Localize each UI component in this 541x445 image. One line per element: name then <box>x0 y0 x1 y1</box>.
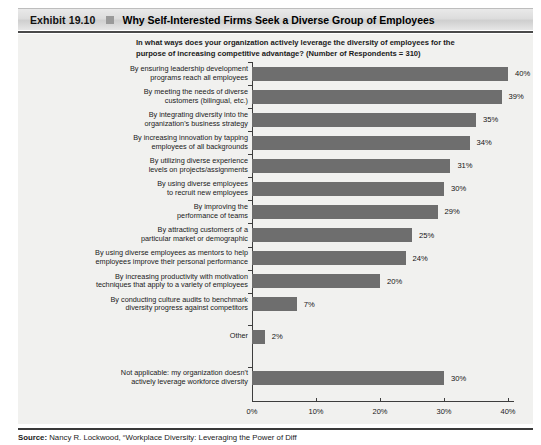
category-label-line: programs reach all employees <box>150 74 248 83</box>
bar <box>252 330 265 344</box>
bar <box>252 228 412 242</box>
survey-question: In what ways does your organization acti… <box>136 38 486 59</box>
x-axis-tick <box>316 398 317 402</box>
exhibit-header: Exhibit 19.10 Why Self-Interested Firms … <box>18 8 533 30</box>
category-label-line: particular market or demographic <box>141 235 248 244</box>
exhibit-number: Exhibit 19.10 <box>30 14 96 26</box>
bar-row: 29% <box>252 200 514 223</box>
y-axis-tick <box>248 325 252 326</box>
y-axis-tick <box>248 177 252 178</box>
category-label: By ensuring leadership developmentprogra… <box>26 62 248 85</box>
chart-panel: In what ways does your organization acti… <box>18 34 533 424</box>
bar <box>252 113 476 127</box>
bar <box>252 182 444 196</box>
source-note: Source: Nancy R. Lockwood, “Workplace Di… <box>18 433 533 444</box>
y-axis-tick <box>248 108 252 109</box>
bar-row: 35% <box>252 108 514 131</box>
category-label-line: organization's business strategy <box>144 120 248 129</box>
x-axis-tick-label: 40% <box>500 407 515 416</box>
y-axis-tick <box>248 247 252 248</box>
category-label-line: actively leverage workforce diversity <box>131 378 248 387</box>
bar <box>252 371 444 385</box>
x-axis-tick <box>444 398 445 402</box>
bar-value-label: 7% <box>304 300 315 309</box>
source-prefix: Source: <box>18 433 47 442</box>
bar <box>252 274 380 288</box>
bar <box>252 136 470 150</box>
category-label-line: employees improve their personal perform… <box>96 258 249 267</box>
bar <box>252 251 406 265</box>
bar-row: 39% <box>252 85 514 108</box>
bar-value-label: 35% <box>483 115 498 124</box>
bar-row: 2% <box>252 325 514 348</box>
bar-row: 25% <box>252 223 514 246</box>
bar-value-label: 2% <box>272 332 283 341</box>
bar-row: 7% <box>252 293 514 316</box>
category-label: By integrating diversity into theorganiz… <box>26 108 248 131</box>
plot-area: 40%39%35%34%31%30%29%25%24%20%7%2%30% 0%… <box>252 62 514 402</box>
x-axis-tick-label: 20% <box>372 407 387 416</box>
category-label: Other <box>26 325 248 348</box>
x-axis-tick <box>380 398 381 402</box>
category-label: By using diverse employeesto recruit new… <box>26 177 248 200</box>
header-divider <box>18 31 533 33</box>
y-axis-tick <box>248 293 252 294</box>
category-label-line: Other <box>230 332 248 341</box>
category-label: By improving theperformance of teams <box>26 200 248 223</box>
bar-row: 30% <box>252 177 514 200</box>
exhibit-title: Why Self-Interested Firms Seek a Diverse… <box>123 14 435 26</box>
y-axis-tick <box>248 223 252 224</box>
category-label: By utilizing diverse experiencelevels on… <box>26 154 248 177</box>
bar-value-label: 39% <box>509 92 524 101</box>
y-axis-tick <box>248 270 252 271</box>
category-label-line: performance of teams <box>177 212 248 221</box>
bar <box>252 90 502 104</box>
category-label-line: customers (bilingual, etc.) <box>165 97 248 106</box>
y-axis-tick <box>248 200 252 201</box>
y-axis-tick <box>248 367 252 368</box>
bar-row: 34% <box>252 131 514 154</box>
square-marker-icon <box>106 16 114 24</box>
category-label: By meeting the needs of diversecustomers… <box>26 85 248 108</box>
bar-row: 40% <box>252 62 514 85</box>
source-text: Nancy R. Lockwood, “Workplace Diversity:… <box>49 433 297 442</box>
category-label-line: to recruit new employees <box>167 189 248 198</box>
bar-value-label: 25% <box>419 231 434 240</box>
category-label: Not applicable: my organization doesn'ta… <box>26 367 248 390</box>
y-axis-tick <box>248 85 252 86</box>
bar-row: 24% <box>252 247 514 270</box>
y-axis-tick <box>248 131 252 132</box>
x-axis-tick-label: 10% <box>308 407 323 416</box>
category-label: By increasing productivity with motivati… <box>26 270 248 293</box>
y-axis-tick <box>248 62 252 63</box>
bar-value-label: 40% <box>515 69 530 78</box>
bar-value-label: 20% <box>387 277 402 286</box>
bar <box>252 67 508 81</box>
category-label: By conducting culture audits to benchmar… <box>26 293 248 316</box>
bar-value-label: 34% <box>477 138 492 147</box>
bar-value-label: 29% <box>445 207 460 216</box>
bar-row: 31% <box>252 154 514 177</box>
footer-divider <box>18 428 533 430</box>
y-axis-tick <box>248 154 252 155</box>
x-axis-tick <box>508 398 509 402</box>
bar-row: 30% <box>252 367 514 390</box>
category-label-line: levels on projects/assignments <box>149 166 248 175</box>
bar-value-label: 30% <box>451 184 466 193</box>
category-label-line: employees of all backgrounds <box>151 143 248 152</box>
category-label: By attracting customers of aparticular m… <box>26 223 248 246</box>
x-axis-line <box>252 401 514 402</box>
category-label-line: techniques that apply to a variety of em… <box>96 281 248 290</box>
bar <box>252 297 297 311</box>
bar-rows: 40%39%35%34%31%30%29%25%24%20%7%2%30% <box>252 62 514 401</box>
x-axis-tick <box>252 398 253 402</box>
category-label: By increasing innovation by tappingemplo… <box>26 131 248 154</box>
bar-value-label: 24% <box>413 254 428 263</box>
bar-value-label: 31% <box>457 161 472 170</box>
x-axis-tick-label: 30% <box>436 407 451 416</box>
bar-row: 20% <box>252 270 514 293</box>
category-axis-labels: By ensuring leadership developmentprogra… <box>26 62 248 402</box>
bar <box>252 159 450 173</box>
category-label-line: diversity progress against competitors <box>126 304 248 313</box>
x-axis-tick-label: 0% <box>247 407 258 416</box>
